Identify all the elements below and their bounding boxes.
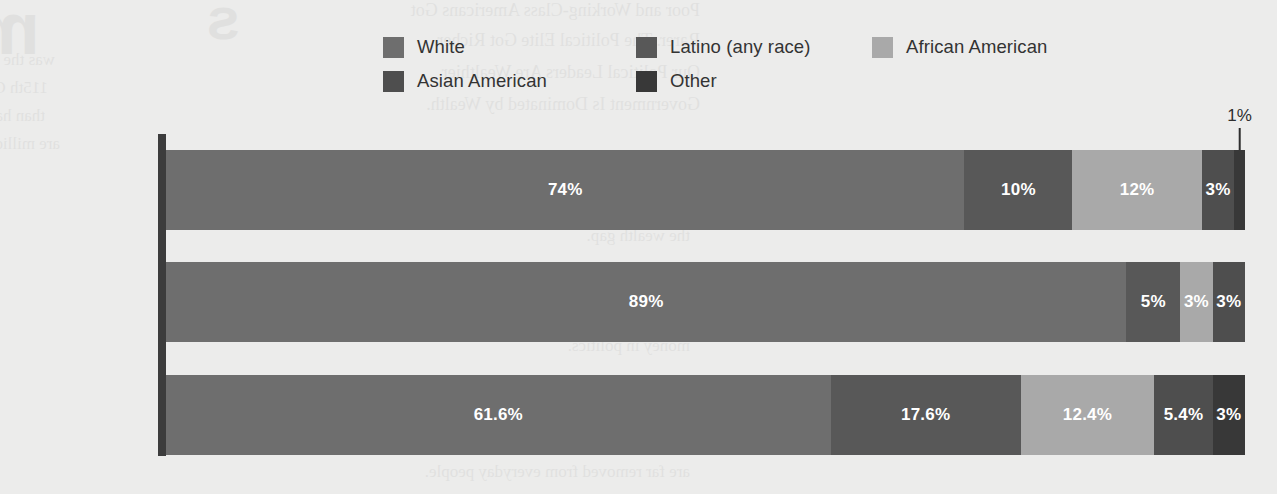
legend-item-asian-american[interactable]: Asian American — [383, 70, 636, 92]
segment-value-house-asian-american: 3% — [1206, 180, 1231, 200]
stacked-bar-house: 74% 10% 12% 3% 1% 1% — [166, 150, 1245, 230]
legend-label-asian-american: Asian American — [417, 70, 547, 92]
legend-label-latino: Latino (any race) — [670, 36, 811, 58]
segment-us-population-asian-american[interactable]: 5.4% — [1154, 375, 1212, 455]
legend-swatch-latino — [636, 37, 657, 58]
legend-label-white: White — [417, 36, 465, 58]
legend-label-other: Other — [670, 70, 717, 92]
callout-leader-line — [1239, 128, 1241, 150]
segment-senate-asian-american[interactable]: 3% — [1213, 262, 1245, 342]
stacked-bar-us-population: 61.6% 17.6% 12.4% 5.4% 3% — [166, 375, 1245, 455]
segment-value-us-population-latino: 17.6% — [901, 405, 950, 425]
segment-value-house-african-american: 12% — [1120, 180, 1155, 200]
segment-house-latino[interactable]: 10% — [964, 150, 1072, 230]
stacked-bar-chart: White Latino (any race) African American… — [0, 0, 1277, 494]
legend-swatch-other — [636, 71, 657, 92]
legend-item-other[interactable]: Other — [636, 70, 872, 92]
segment-value-house-white: 74% — [548, 180, 583, 200]
callout-text-house-other: 1% — [1227, 106, 1252, 126]
legend-swatch-asian-american — [383, 71, 404, 92]
segment-us-population-other[interactable]: 3% — [1213, 375, 1245, 455]
callout-house-other: 1% — [1227, 106, 1252, 150]
stacked-bar-senate: 89% 5% 3% 3% — [166, 262, 1245, 342]
legend-row-2: Asian American Other — [383, 64, 1083, 98]
segment-value-us-population-other: 3% — [1216, 405, 1241, 425]
legend-row-1: White Latino (any race) African American — [383, 30, 1083, 64]
segment-us-population-african-american[interactable]: 12.4% — [1021, 375, 1155, 455]
segment-house-other[interactable]: 1% 1% — [1234, 150, 1245, 230]
chart-legend: White Latino (any race) African American… — [383, 30, 1083, 98]
segment-value-house-latino: 10% — [1001, 180, 1036, 200]
segment-senate-white[interactable]: 89% — [166, 262, 1126, 342]
category-axis-line — [158, 134, 166, 456]
segment-senate-latino[interactable]: 5% — [1126, 262, 1180, 342]
segment-house-african-american[interactable]: 12% — [1072, 150, 1201, 230]
segment-value-senate-latino: 5% — [1141, 292, 1166, 312]
legend-swatch-white — [383, 37, 404, 58]
legend-item-latino[interactable]: Latino (any race) — [636, 36, 872, 58]
segment-us-population-latino[interactable]: 17.6% — [831, 375, 1021, 455]
segment-value-senate-african-american: 3% — [1184, 292, 1209, 312]
segment-value-senate-white: 89% — [629, 292, 664, 312]
legend-item-white[interactable]: White — [383, 36, 636, 58]
segment-house-white[interactable]: 74% — [166, 150, 964, 230]
segment-house-asian-american[interactable]: 3% — [1202, 150, 1234, 230]
legend-swatch-african-american — [872, 37, 893, 58]
segment-value-us-population-white: 61.6% — [474, 405, 523, 425]
segment-senate-african-american[interactable]: 3% — [1180, 262, 1212, 342]
segment-value-senate-asian-american: 3% — [1216, 292, 1241, 312]
segment-value-us-population-african-american: 12.4% — [1063, 405, 1112, 425]
legend-label-african-american: African American — [906, 36, 1047, 58]
legend-item-african-american[interactable]: African American — [872, 36, 1082, 58]
segment-value-us-population-asian-american: 5.4% — [1164, 405, 1204, 425]
segment-us-population-white[interactable]: 61.6% — [166, 375, 831, 455]
